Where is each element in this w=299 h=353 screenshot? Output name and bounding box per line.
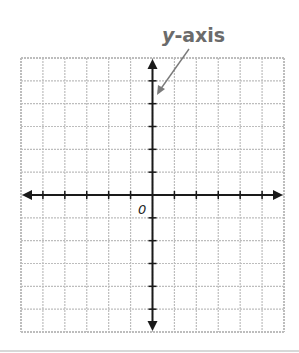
coordinate-plane bbox=[0, 0, 299, 353]
divider bbox=[0, 350, 299, 352]
callout-arrow bbox=[157, 49, 189, 95]
y-axis-label: y-axis bbox=[162, 24, 225, 46]
origin-label: 0 bbox=[138, 202, 146, 217]
